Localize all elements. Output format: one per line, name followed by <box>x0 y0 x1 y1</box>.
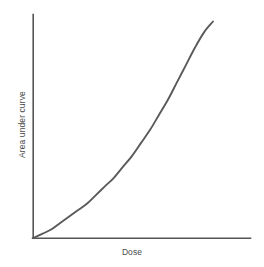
x-axis-label: Dose <box>0 247 264 257</box>
chart-figure: Dose Area under curve <box>0 0 264 267</box>
axes-group <box>33 15 251 239</box>
chart-plot-area <box>0 0 264 267</box>
data-curve-area-under-curve <box>33 22 213 239</box>
y-axis-label: Area under curve <box>17 114 27 158</box>
data-series-group <box>33 22 213 239</box>
